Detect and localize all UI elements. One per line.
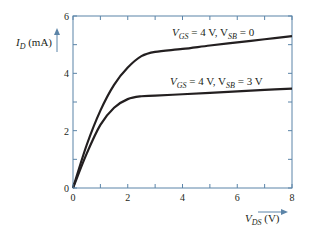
curve-series-1	[73, 89, 292, 188]
x-tick-label: 8	[290, 192, 295, 203]
curve-series-0	[73, 36, 292, 188]
plot-area	[73, 16, 292, 188]
x-tick-label: 4	[180, 192, 185, 203]
x-tick-label: 2	[125, 192, 130, 203]
y-tick-label: 2	[64, 126, 69, 137]
y-tick-label: 0	[64, 183, 69, 194]
curve-label-vsb-0: VGS = 4 V, VSB = 0	[172, 26, 255, 41]
chart: 024680246 ID (mA) VDS (V) VGS = 4 V, VSB…	[0, 0, 311, 238]
x-tick-label: 6	[235, 192, 240, 203]
x-tick-label: 0	[71, 192, 76, 203]
curve-label-vsb-3: VGS = 4 V, VSB = 3 V	[170, 75, 263, 90]
y-axis-arrow-icon	[54, 28, 60, 52]
y-tick-label: 6	[64, 11, 69, 22]
x-axis-label: VDS (V)	[245, 212, 280, 227]
y-axis-label: ID (mA)	[15, 36, 52, 51]
y-tick-label: 4	[64, 68, 69, 79]
curves	[73, 36, 292, 188]
